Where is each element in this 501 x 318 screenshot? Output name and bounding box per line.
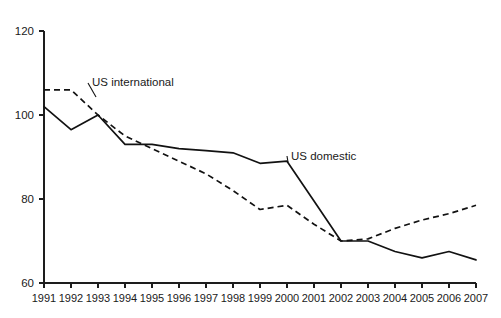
x-tick-label: 2001: [302, 292, 326, 304]
y-tick-group: [39, 31, 44, 283]
x-tick-label: 1994: [113, 292, 137, 304]
series-line-us-international: [44, 90, 476, 241]
series-label-us-international: US international: [92, 76, 174, 88]
x-tick-label: 2000: [275, 292, 299, 304]
x-tick-label: 2002: [329, 292, 353, 304]
axes-group: [39, 31, 476, 288]
chart-container: 6080100120 19911992199319941995199619971…: [0, 0, 501, 318]
x-tick-group: [44, 283, 476, 288]
y-tick-label: 60: [21, 277, 34, 289]
annotation-group: US international US domestic: [88, 76, 356, 162]
x-axis-tick-labels: 1991199219931994199519961997199819992000…: [32, 292, 488, 304]
series-line-us-domestic: [44, 107, 476, 260]
x-tick-label: 1999: [248, 292, 272, 304]
x-tick-label: 1992: [59, 292, 83, 304]
series-label-us-domestic: US domestic: [291, 150, 356, 162]
y-axis-tick-labels: 6080100120: [15, 25, 34, 289]
x-tick-label: 1991: [32, 292, 56, 304]
x-tick-label: 1993: [86, 292, 110, 304]
y-tick-label: 80: [21, 193, 34, 205]
x-tick-label: 2005: [410, 292, 434, 304]
x-tick-label: 2006: [437, 292, 461, 304]
y-tick-label: 100: [15, 109, 34, 121]
y-tick-label: 120: [15, 25, 34, 37]
line-chart: 6080100120 19911992199319941995199619971…: [0, 0, 501, 318]
x-tick-label: 1997: [194, 292, 218, 304]
series-group: [44, 90, 476, 260]
x-tick-label: 2007: [464, 292, 488, 304]
x-tick-label: 1996: [167, 292, 191, 304]
x-tick-label: 2003: [356, 292, 380, 304]
x-tick-label: 2004: [383, 292, 407, 304]
x-tick-label: 1995: [140, 292, 164, 304]
x-tick-label: 1998: [221, 292, 245, 304]
